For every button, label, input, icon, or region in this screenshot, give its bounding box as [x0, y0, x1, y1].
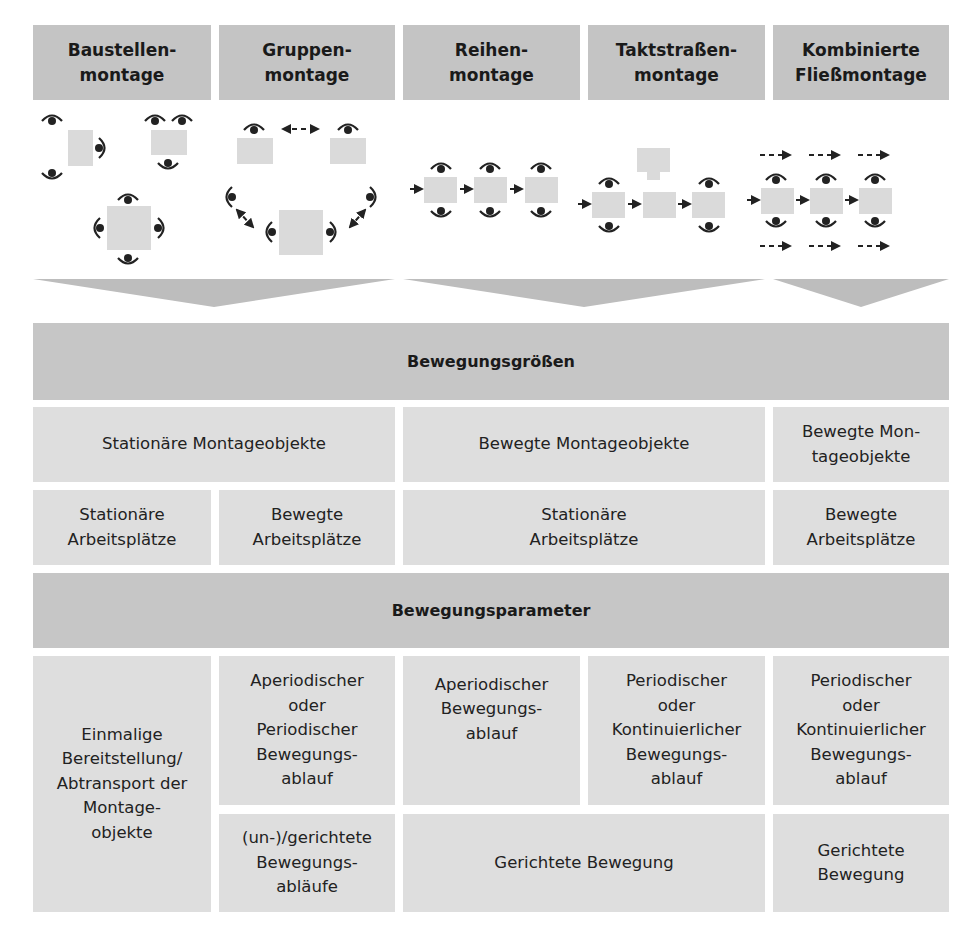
header-baustellenmontage: Baustellen- montage	[33, 25, 211, 100]
cell-ablauf-periodisch-kontinuierlich-right: Periodischer oder Kontinuierlicher Beweg…	[773, 656, 949, 805]
reihenmontage-diagram	[410, 164, 558, 217]
header-taktstrassenmontage: Taktstraßen- montage	[588, 25, 765, 100]
cell-ablauf-aperiodisch: Aperiodischer Bewegungs- ablauf	[403, 656, 580, 805]
cell-ablauf-periodisch-kontinuierlich: Periodischer oder Kontinuierlicher Beweg…	[588, 656, 765, 805]
cell-stationaere-arbeitsplaetze-mid: Stationäre Arbeitsplätze	[403, 490, 765, 565]
taktstrassenmontage-diagram	[578, 148, 725, 232]
chevron-down-icon	[33, 279, 395, 307]
cell-gerichtete-bewegung: Gerichtete Bewegung	[403, 814, 765, 912]
cell-einmalige-bereitstellung: Einmalige Bereitstellung/ Abtransport de…	[33, 656, 211, 912]
cell-stationaere-montageobjekte: Stationäre Montageobjekte	[33, 407, 395, 482]
header-gruppenmontage: Gruppen- montage	[219, 25, 395, 100]
cell-bewegte-montageobjekte-right: Bewegte Mon- tageobjekte	[773, 407, 949, 482]
baustellenmontage-diagram	[42, 116, 192, 264]
kombinierte-fliessmontage-diagram	[747, 155, 892, 246]
chevron-down-icon	[773, 279, 949, 307]
header-kombinierte-fliessmontage: Kombinierte Fließmontage	[773, 25, 949, 100]
cell-gerichtete-bewegung-right: Gerichtete Bewegung	[773, 814, 949, 912]
gruppenmontage-diagram	[227, 125, 376, 256]
cell-stationaere-arbeitsplaetze: Stationäre Arbeitsplätze	[33, 490, 211, 565]
band-bewegungsparameter: Bewegungsparameter	[33, 573, 949, 648]
cell-bewegte-arbeitsplaetze: Bewegte Arbeitsplätze	[219, 490, 395, 565]
cell-ungerichtete-ablaeufe: (un-)/gerichtete Bewegungs- abläufe	[219, 814, 395, 912]
chevron-arrows	[0, 278, 976, 314]
cell-bewegte-montageobjekte: Bewegte Montageobjekte	[403, 407, 765, 482]
header-reihenmontage: Reihen- montage	[403, 25, 580, 100]
cell-bewegte-arbeitsplaetze-right: Bewegte Arbeitsplätze	[773, 490, 949, 565]
cell-ablauf-aperiodisch-periodisch: Aperiodischer oder Periodischer Bewegung…	[219, 656, 395, 805]
chevron-down-icon	[403, 279, 765, 307]
assembly-diagrams	[0, 100, 976, 275]
band-bewegungsgroessen: Bewegungsgrößen	[33, 323, 949, 400]
